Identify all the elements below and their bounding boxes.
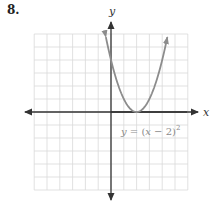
y-axis-label: y (108, 5, 116, 18)
x-axis-label: x (203, 106, 210, 119)
parabola-graph: y x y = (x − 2)2 (0, 0, 224, 205)
equation-label: y = (x − 2)2 (120, 124, 180, 137)
